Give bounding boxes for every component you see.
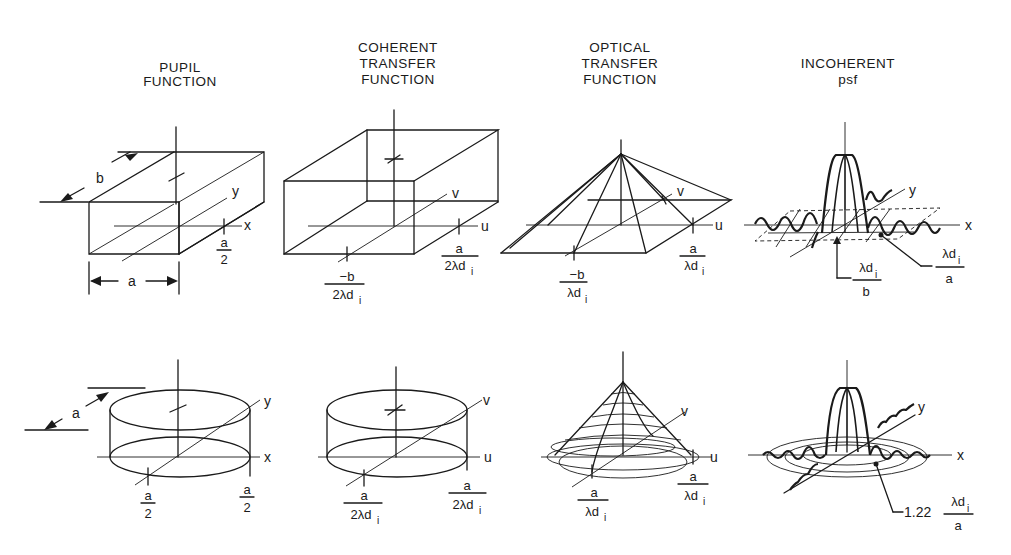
svg-text:λd: λd bbox=[684, 488, 698, 503]
svg-text:λd: λd bbox=[567, 285, 581, 300]
svg-text:a: a bbox=[360, 488, 368, 503]
svg-text:λd: λd bbox=[585, 504, 599, 519]
svg-text:TRANSFER: TRANSFER bbox=[360, 56, 437, 71]
axis-label-x: x bbox=[965, 217, 972, 233]
axis-label-x: x bbox=[244, 217, 251, 233]
svg-text:psf: psf bbox=[838, 72, 858, 87]
column-title-pupil: PUPIL FUNCTION bbox=[143, 60, 217, 89]
optics-diagram: PUPIL FUNCTION COHERENT TRANSFER FUNCTIO… bbox=[0, 0, 1011, 555]
svg-text:2λd: 2λd bbox=[453, 497, 474, 512]
axis-label-x: x bbox=[957, 447, 964, 463]
rect-coherent-figure: v u a 2λd i −b 2λd i bbox=[284, 110, 498, 306]
svg-text:i: i bbox=[967, 503, 969, 514]
axis-label-u: u bbox=[715, 217, 723, 233]
svg-text:i: i bbox=[471, 266, 473, 277]
circ-psf-figure: y x 1.22 λd i a bbox=[748, 360, 973, 533]
svg-text:2λd: 2λd bbox=[445, 258, 466, 273]
axis-label-y: y bbox=[918, 399, 925, 415]
svg-text:−b: −b bbox=[570, 267, 585, 282]
svg-text:a: a bbox=[954, 518, 962, 533]
svg-text:2: 2 bbox=[144, 506, 151, 521]
svg-text:a: a bbox=[243, 482, 251, 497]
svg-text:λd: λd bbox=[859, 260, 873, 275]
column-title-optical-transfer: OPTICAL TRANSFER FUNCTION bbox=[582, 40, 659, 87]
svg-text:b: b bbox=[862, 284, 869, 299]
svg-text:2λd: 2λd bbox=[351, 507, 372, 522]
axis-label-u: u bbox=[481, 218, 489, 234]
tick-num: a bbox=[220, 235, 228, 250]
svg-text:COHERENT: COHERENT bbox=[358, 40, 438, 55]
svg-text:FUNCTION: FUNCTION bbox=[361, 72, 435, 87]
axis-label-v: v bbox=[677, 183, 684, 199]
axis-label-y: y bbox=[264, 393, 271, 409]
axis-label-y: y bbox=[909, 182, 916, 198]
dim-label-b: b bbox=[96, 170, 104, 186]
axis-label-u: u bbox=[710, 449, 718, 465]
svg-text:2λd: 2λd bbox=[333, 287, 354, 302]
svg-text:i: i bbox=[377, 515, 379, 526]
svg-text:−b: −b bbox=[340, 269, 355, 284]
svg-text:PUPIL: PUPIL bbox=[159, 60, 201, 75]
svg-text:2: 2 bbox=[243, 500, 250, 515]
svg-text:a: a bbox=[689, 241, 697, 256]
svg-text:i: i bbox=[875, 269, 877, 280]
svg-text:λd: λd bbox=[951, 494, 965, 509]
column-title-incoherent-psf: INCOHERENT psf bbox=[801, 56, 895, 87]
svg-text:FUNCTION: FUNCTION bbox=[143, 74, 217, 89]
svg-text:a: a bbox=[144, 488, 152, 503]
dim-label-a: a bbox=[128, 273, 136, 289]
svg-text:i: i bbox=[585, 294, 587, 305]
rect-otf-pyramid: v u a λd i −b λd i bbox=[501, 140, 731, 305]
svg-text:a: a bbox=[689, 469, 697, 484]
svg-text:i: i bbox=[958, 255, 960, 266]
rect-pupil-figure: b a x y a 2 bbox=[40, 127, 264, 294]
svg-text:λd: λd bbox=[942, 246, 956, 261]
axis-label-v: v bbox=[681, 403, 688, 419]
svg-text:INCOHERENT: INCOHERENT bbox=[801, 56, 895, 71]
circ-otf-cone: v u a λd i a λd i bbox=[541, 352, 718, 523]
dim-label-a: a bbox=[72, 405, 80, 421]
svg-text:i: i bbox=[359, 295, 361, 306]
axis-label-u: u bbox=[484, 449, 492, 465]
svg-text:i: i bbox=[703, 496, 705, 507]
circ-coherent-figure: v u a 2λd i a 2λd i bbox=[318, 367, 492, 526]
svg-text:a: a bbox=[455, 241, 463, 256]
rect-psf-figure: y x λd i a λd i b bbox=[744, 122, 972, 299]
tick-den: 2 bbox=[220, 252, 227, 267]
svg-text:a: a bbox=[590, 485, 598, 500]
svg-text:i: i bbox=[702, 266, 704, 277]
axis-label-x: x bbox=[264, 449, 271, 465]
svg-text:i: i bbox=[479, 505, 481, 516]
svg-text:i: i bbox=[604, 512, 606, 523]
svg-text:a: a bbox=[463, 478, 471, 493]
axis-label-v: v bbox=[483, 392, 490, 408]
svg-text:λd: λd bbox=[684, 258, 698, 273]
column-title-coherent-transfer: COHERENT TRANSFER FUNCTION bbox=[358, 40, 438, 87]
svg-text:OPTICAL: OPTICAL bbox=[589, 40, 650, 55]
axis-label-v: v bbox=[452, 185, 459, 201]
svg-text:FUNCTION: FUNCTION bbox=[583, 72, 657, 87]
svg-text:a: a bbox=[945, 271, 953, 286]
coefficient-label: 1.22 bbox=[904, 504, 931, 520]
svg-text:TRANSFER: TRANSFER bbox=[582, 56, 659, 71]
circ-pupil-figure: a y x a 2 a 2 bbox=[25, 360, 271, 521]
axis-label-y: y bbox=[232, 183, 239, 199]
